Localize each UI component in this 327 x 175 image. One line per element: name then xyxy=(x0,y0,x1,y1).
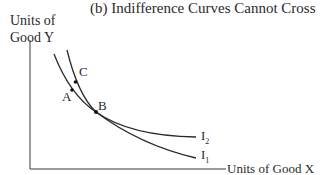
diagram-canvas xyxy=(0,0,327,175)
curve-label-i2-sub: 2 xyxy=(205,137,209,146)
point-a-label: A xyxy=(62,89,71,105)
x-axis-label: Units of Good X xyxy=(227,161,314,175)
point-c-marker xyxy=(74,80,78,84)
indifference-curve-i1 xyxy=(54,54,196,158)
point-b-label: B xyxy=(98,98,107,114)
curve-label-i2: I2 xyxy=(201,128,209,146)
point-c-label: C xyxy=(79,64,88,80)
curve-label-i1: I1 xyxy=(201,147,209,165)
curve-label-i1-sub: 1 xyxy=(205,156,209,165)
